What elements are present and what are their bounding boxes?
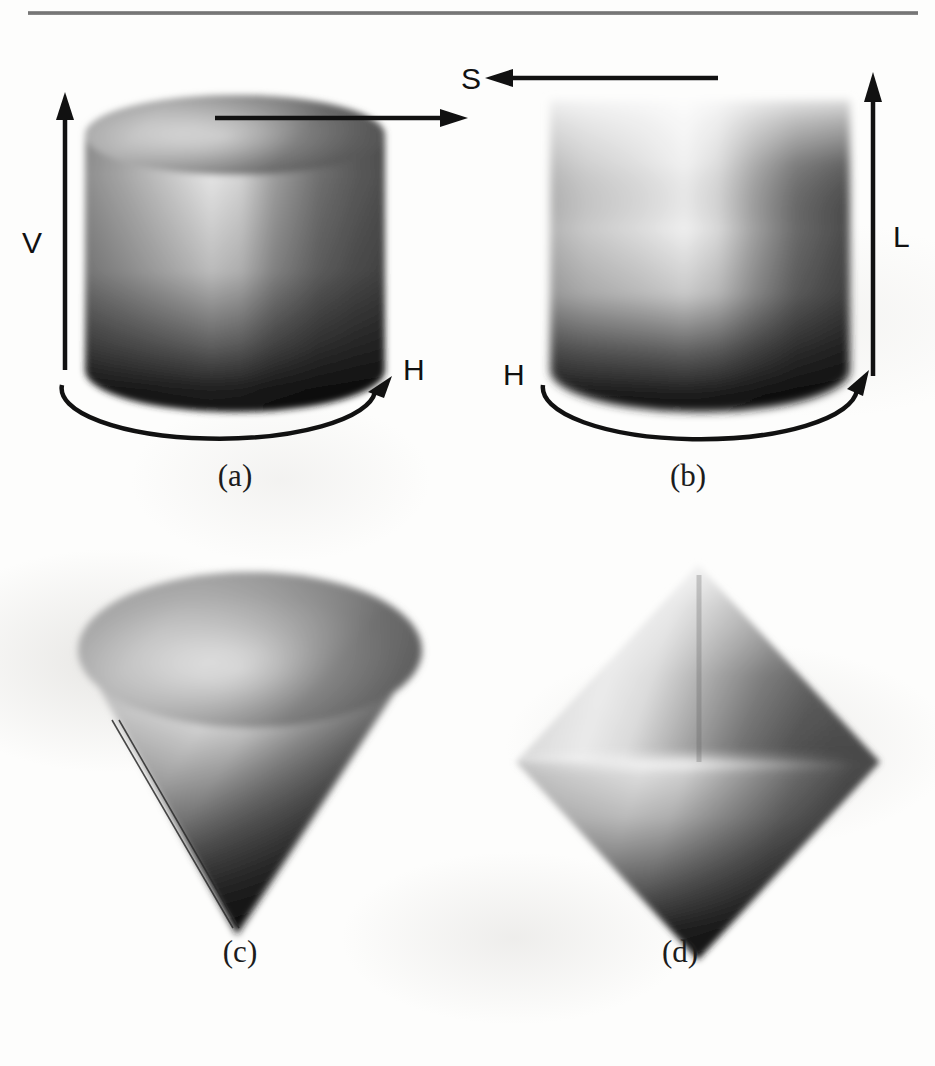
axis-label-v: V (22, 226, 42, 260)
panel-b-graphic (465, 40, 935, 510)
hsv-cylinder-solid (80, 95, 392, 415)
axis-arrow-l (864, 72, 882, 376)
panel-c-hsv-cone: (c) (20, 530, 490, 1010)
bicone-waist-highlight (520, 754, 850, 769)
axis-arrow-v (56, 92, 74, 370)
caption-c: (c) (180, 934, 300, 970)
caption-d: (d) (620, 934, 740, 970)
caption-b: (b) (628, 458, 748, 494)
hsl-cylinder-solid (545, 92, 857, 417)
hsv-cone-solid (70, 572, 430, 950)
axis-arrow-h-b-head (847, 370, 869, 396)
caption-a: (a) (175, 458, 295, 494)
panel-a-graphic (0, 40, 470, 510)
panel-b-hsl-cylinder: S L H (b) (465, 40, 935, 510)
figure-page: V H (a) (0, 0, 935, 1066)
axis-label-h-b: H (503, 358, 525, 392)
panel-d-hsl-bicone: (d) (480, 530, 935, 1010)
axis-arrow-s-right (485, 69, 718, 87)
panel-a-hsv-cylinder: V H (a) (0, 40, 470, 510)
axis-label-h-a: H (403, 353, 425, 387)
axis-label-s: S (461, 62, 481, 96)
axis-label-l: L (893, 220, 910, 254)
top-horizontal-rule (28, 11, 918, 15)
